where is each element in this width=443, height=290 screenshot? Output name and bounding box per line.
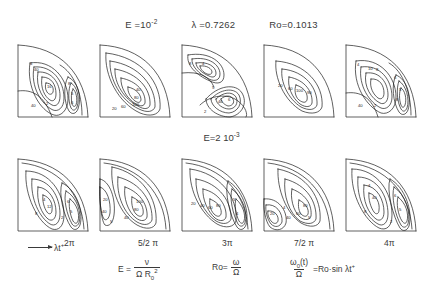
svg-text:20: 20 bbox=[191, 201, 196, 206]
axis-tick-2: 3π bbox=[222, 238, 233, 248]
svg-text:4: 4 bbox=[236, 211, 239, 216]
panel-top-7-2pi: 20 60 100 90 bbox=[262, 43, 336, 119]
row-label-ekman-2e-3: E=2 10-3 bbox=[0, 131, 443, 143]
svg-text:10: 10 bbox=[368, 66, 373, 71]
svg-text:100: 100 bbox=[296, 88, 304, 93]
svg-text:20: 20 bbox=[270, 211, 275, 216]
svg-text:4: 4 bbox=[357, 62, 360, 67]
svg-text:80: 80 bbox=[134, 207, 139, 212]
svg-text:4: 4 bbox=[43, 197, 46, 202]
formula-forcing-rhs: =Ro·sin λt+ bbox=[313, 263, 355, 274]
svg-text:40: 40 bbox=[102, 209, 107, 214]
formula-rossby-lhs: Ro= bbox=[212, 262, 228, 272]
panel-bottom-2pi: 4 12 8 6 5 2 bbox=[16, 157, 90, 233]
formula-rossby-number: Ro= ω Ω bbox=[212, 258, 241, 277]
formula-row: E = ν Ω R02 Ro= ω Ω ω0(t) Ω =Ro·sin λt+ bbox=[0, 258, 443, 284]
panel-row-ekman-1e-2: 4 40 16 8 5 6 40 2 40 80 10 bbox=[16, 43, 418, 119]
panel-top-2pi: 4 40 16 8 5 6 40 2 bbox=[16, 43, 90, 119]
svg-text:80: 80 bbox=[134, 95, 139, 100]
svg-text:6: 6 bbox=[394, 193, 397, 198]
axis-tick-row: 2π 5/2 π 3π 7/2 π 4π bbox=[0, 238, 443, 252]
axis-tick-4: 4π bbox=[384, 238, 395, 248]
ekman-number-label: E =10-2 bbox=[125, 18, 157, 30]
svg-text:60: 60 bbox=[288, 86, 293, 91]
formula-rossby-numerator: ω bbox=[231, 258, 242, 267]
parameter-header: E =10-2 λ =0.7262 Ro=0.1013 bbox=[0, 18, 443, 30]
svg-text:4: 4 bbox=[202, 61, 205, 66]
panel-bottom-5-2pi: 20 40 100 80 40 5 bbox=[98, 157, 172, 233]
svg-text:5: 5 bbox=[212, 85, 215, 90]
formula-forcing-denominator: Ω bbox=[294, 269, 304, 279]
lambda-label: λ =0.7262 bbox=[191, 19, 235, 30]
svg-text:12: 12 bbox=[47, 204, 52, 209]
svg-text:4: 4 bbox=[368, 183, 371, 188]
svg-text:40: 40 bbox=[218, 99, 223, 104]
axis-tick-0: 2π bbox=[64, 238, 75, 248]
svg-text:8: 8 bbox=[376, 67, 379, 72]
svg-text:80: 80 bbox=[303, 203, 308, 208]
formula-ekman-denominator: Ω R02 bbox=[134, 267, 160, 281]
svg-text:4: 4 bbox=[283, 205, 286, 210]
svg-text:40: 40 bbox=[136, 87, 141, 92]
svg-text:5: 5 bbox=[399, 87, 402, 92]
svg-text:2: 2 bbox=[46, 101, 49, 106]
formula-ekman-number: E = ν Ω R02 bbox=[118, 258, 160, 281]
svg-text:40: 40 bbox=[286, 215, 291, 220]
svg-text:6: 6 bbox=[394, 75, 397, 80]
svg-text:80: 80 bbox=[216, 203, 221, 208]
svg-text:60: 60 bbox=[296, 211, 301, 216]
svg-text:100: 100 bbox=[132, 102, 140, 107]
formula-ekman-fraction: ν Ω R02 bbox=[134, 258, 160, 281]
svg-text:5: 5 bbox=[71, 91, 74, 96]
formula-rossby-denominator: Ω bbox=[231, 267, 241, 277]
panel-top-5-2pi: 40 80 100 20 60 bbox=[98, 43, 172, 119]
svg-text:6: 6 bbox=[71, 100, 74, 105]
axis-tick-1: 5/2 π bbox=[138, 238, 158, 248]
panel-top-4pi: 4 10 8 6 5 8 40 2 bbox=[344, 43, 418, 119]
svg-text:40: 40 bbox=[31, 103, 36, 108]
svg-text:20: 20 bbox=[103, 197, 108, 202]
svg-text:8: 8 bbox=[189, 61, 192, 66]
svg-text:40: 40 bbox=[34, 67, 39, 72]
formula-forcing-numerator: ω0(t) bbox=[288, 258, 310, 269]
formula-forcing-fraction: ω0(t) Ω bbox=[288, 258, 310, 279]
rossby-number-label: Ro=0.1013 bbox=[269, 19, 318, 30]
svg-text:5: 5 bbox=[399, 207, 402, 212]
svg-text:5: 5 bbox=[70, 209, 73, 214]
formula-rossby-fraction: ω Ω bbox=[231, 258, 242, 277]
svg-text:16: 16 bbox=[47, 84, 52, 89]
svg-text:90: 90 bbox=[307, 90, 312, 95]
panel-top-3pi: 8 4 5 40 6 2 bbox=[180, 43, 254, 119]
svg-text:4: 4 bbox=[30, 61, 33, 66]
svg-text:6: 6 bbox=[228, 97, 231, 102]
panel-row-ekman-2e-3: 4 12 8 6 5 2 20 40 100 bbox=[16, 157, 418, 233]
svg-text:40: 40 bbox=[358, 103, 363, 108]
panel-bottom-3pi: 20 40 60 80 5 4 bbox=[180, 157, 254, 233]
svg-text:20: 20 bbox=[278, 83, 283, 88]
axis-tick-3: 7/2 π bbox=[294, 238, 314, 248]
svg-text:2: 2 bbox=[204, 109, 207, 114]
svg-text:2: 2 bbox=[390, 219, 393, 224]
panel-bottom-4pi: 4 40 8 6 5 2 bbox=[344, 157, 418, 233]
formula-ekman-lhs: E = bbox=[118, 264, 131, 274]
figure-root: E =10-2 λ =0.7262 Ro=0.1013 4 40 bbox=[0, 0, 443, 290]
svg-text:40: 40 bbox=[200, 203, 205, 208]
formula-forcing: ω0(t) Ω =Ro·sin λt+ bbox=[288, 258, 355, 279]
svg-text:60: 60 bbox=[208, 205, 213, 210]
panel-bottom-7-2pi: 20 40 60 80 4 5 bbox=[262, 157, 336, 233]
svg-text:40: 40 bbox=[124, 215, 129, 220]
svg-text:20: 20 bbox=[112, 106, 117, 111]
svg-text:100: 100 bbox=[136, 199, 144, 204]
svg-text:60: 60 bbox=[121, 104, 126, 109]
svg-text:40: 40 bbox=[372, 195, 377, 200]
formula-ekman-numerator: ν bbox=[143, 258, 151, 267]
